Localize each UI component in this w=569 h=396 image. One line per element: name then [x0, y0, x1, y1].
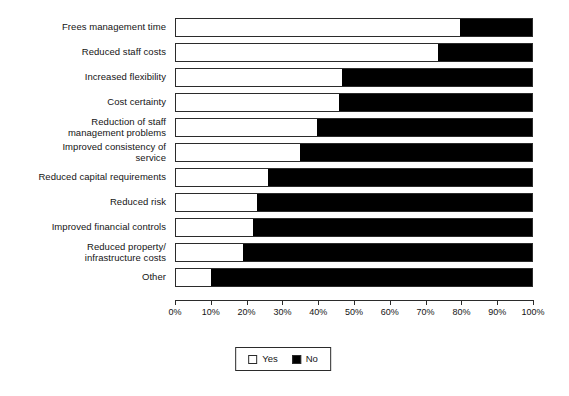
bar-segment-yes — [176, 269, 212, 286]
bar-segment-divider — [342, 69, 343, 86]
legend-item-yes: Yes — [248, 354, 278, 364]
category-label: Frees management time — [0, 22, 175, 33]
chart-row: Reduction of staff management problems — [0, 118, 569, 137]
stacked-bar — [175, 243, 533, 262]
x-tick-mark — [461, 300, 462, 305]
stacked-bar — [175, 143, 533, 162]
x-tick-mark — [282, 300, 283, 305]
stacked-bar — [175, 168, 533, 187]
bar-segment-no — [212, 269, 532, 286]
x-tick-mark — [390, 300, 391, 305]
stacked-bar-chart: Frees management timeReduced staff costs… — [0, 0, 569, 396]
bar-segment-divider — [339, 94, 340, 111]
x-tick-label: 10% — [202, 307, 220, 318]
x-tick-label: 40% — [309, 307, 327, 318]
bar-segment-divider — [438, 44, 439, 61]
bar-segment-divider — [243, 244, 244, 261]
chart-row: Improved consistency of service — [0, 143, 569, 162]
x-tick-label: 0% — [168, 307, 181, 318]
x-tick-mark — [211, 300, 212, 305]
x-tick-label: 70% — [417, 307, 435, 318]
chart-row: Cost certainty — [0, 93, 569, 112]
category-label: Reduction of staff management problems — [0, 117, 175, 138]
bar-segment-yes — [176, 219, 254, 236]
bar-segment-yes — [176, 119, 318, 136]
legend-swatch-yes-icon — [248, 355, 257, 364]
category-label: Other — [0, 272, 175, 283]
bar-segment-yes — [176, 194, 258, 211]
bar-segment-yes — [176, 169, 269, 186]
bar-segment-yes — [176, 44, 439, 61]
chart-row: Other — [0, 268, 569, 287]
legend-label-no: No — [306, 354, 318, 364]
bar-segment-no — [343, 69, 532, 86]
legend-label-yes: Yes — [262, 354, 278, 364]
x-tick-mark — [318, 300, 319, 305]
bar-segment-no — [340, 94, 532, 111]
bar-segment-yes — [176, 144, 301, 161]
stacked-bar — [175, 268, 533, 287]
category-label: Reduced risk — [0, 197, 175, 208]
bar-segment-no — [269, 169, 532, 186]
stacked-bar — [175, 218, 533, 237]
bar-segment-no — [461, 19, 532, 36]
x-tick-mark — [247, 300, 248, 305]
x-tick-label: 90% — [488, 307, 506, 318]
chart-row: Increased flexibility — [0, 68, 569, 87]
stacked-bar — [175, 193, 533, 212]
plot-area: Frees management timeReduced staff costs… — [0, 18, 569, 300]
bar-segment-divider — [268, 169, 269, 186]
chart-row: Improved financial controls — [0, 218, 569, 237]
x-tick-label: 80% — [452, 307, 470, 318]
category-label: Reduced staff costs — [0, 47, 175, 58]
bar-segment-no — [254, 219, 532, 236]
bar-segment-no — [318, 119, 532, 136]
bar-segment-yes — [176, 19, 461, 36]
category-label: Cost certainty — [0, 97, 175, 108]
bar-segment-no — [439, 44, 532, 61]
bar-segment-divider — [300, 144, 301, 161]
x-tick-mark — [426, 300, 427, 305]
chart-legend: Yes No — [235, 347, 331, 371]
stacked-bar — [175, 68, 533, 87]
category-label: Reduced capital requirements — [0, 172, 175, 183]
chart-row: Reduced risk — [0, 193, 569, 212]
x-tick-label: 50% — [345, 307, 363, 318]
legend-swatch-no-icon — [292, 355, 301, 364]
bar-segment-no — [301, 144, 532, 161]
chart-row: Reduced staff costs — [0, 43, 569, 62]
bar-segment-divider — [317, 119, 318, 136]
bar-segment-no — [244, 244, 532, 261]
stacked-bar — [175, 18, 533, 37]
bar-segment-no — [258, 194, 532, 211]
chart-row: Reduced property/ infrastructure costs — [0, 243, 569, 262]
x-tick-mark — [533, 300, 534, 305]
category-label: Improved financial controls — [0, 222, 175, 233]
category-label: Increased flexibility — [0, 72, 175, 83]
bar-segment-divider — [257, 194, 258, 211]
bar-segment-yes — [176, 94, 340, 111]
bar-rows: Frees management timeReduced staff costs… — [0, 18, 569, 287]
chart-row: Reduced capital requirements — [0, 168, 569, 187]
bar-segment-divider — [460, 19, 461, 36]
bar-segment-divider — [211, 269, 212, 286]
bar-segment-yes — [176, 244, 244, 261]
x-tick-mark — [175, 300, 176, 305]
x-tick-label: 60% — [381, 307, 399, 318]
stacked-bar — [175, 118, 533, 137]
x-tick-label: 30% — [273, 307, 291, 318]
legend-item-no: No — [292, 354, 318, 364]
stacked-bar — [175, 43, 533, 62]
bar-segment-divider — [253, 219, 254, 236]
bar-segment-yes — [176, 69, 343, 86]
category-label: Improved consistency of service — [0, 142, 175, 163]
x-tick-label: 20% — [238, 307, 256, 318]
chart-row: Frees management time — [0, 18, 569, 37]
x-axis: 0%10%20%30%40%50%60%70%80%90%100% — [175, 300, 533, 322]
x-tick-label: 100% — [521, 307, 544, 318]
stacked-bar — [175, 93, 533, 112]
x-tick-mark — [497, 300, 498, 305]
category-label: Reduced property/ infrastructure costs — [0, 242, 175, 263]
x-tick-mark — [354, 300, 355, 305]
